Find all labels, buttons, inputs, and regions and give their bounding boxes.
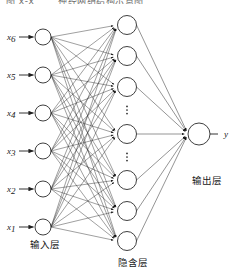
edge-input-2-hidden-1 xyxy=(51,28,114,75)
layer-label-input: 输入层 xyxy=(30,239,60,250)
edges-hidden-to-output xyxy=(137,25,187,241)
hidden-node-1 xyxy=(118,16,137,35)
hidden-node-6 xyxy=(118,202,137,221)
input-node-5 xyxy=(35,181,51,197)
edge-input-3-hidden-6 xyxy=(51,113,115,208)
hidden-ellipsis-2-dot-3 xyxy=(126,160,128,162)
edge-hidden-3-output xyxy=(137,87,186,132)
input-label-5: x2 xyxy=(6,184,16,196)
layer-label-hidden: 隐含层 xyxy=(118,257,148,268)
hidden-node-2 xyxy=(118,47,137,66)
edge-input-5-hidden-4 xyxy=(51,137,114,189)
input-label-3: x4 xyxy=(6,108,16,120)
edge-input-5-hidden-5 xyxy=(51,181,113,189)
edge-input-4-hidden-1 xyxy=(51,29,116,151)
hidden-node-4 xyxy=(118,125,137,144)
hidden-node-7 xyxy=(118,232,137,251)
layer-label-output: 输出层 xyxy=(192,175,222,186)
edge-input-3-hidden-4 xyxy=(51,113,113,133)
input-label-2: x5 xyxy=(6,70,16,82)
input-node-6 xyxy=(35,219,51,235)
hidden-layer-nodes xyxy=(118,16,137,251)
output-signal-label: y xyxy=(223,129,228,139)
hidden-ellipsis-1-dot-2 xyxy=(126,109,128,111)
edge-hidden-1-output xyxy=(137,25,187,131)
edge-input-1-hidden-3 xyxy=(51,37,114,84)
input-layer-nodes xyxy=(35,29,51,235)
input-label-6: x1 xyxy=(6,222,16,234)
figure-root: 图 x-x 神经网络结构示意图 x6x5x4x3x2x1 y 输入层隐含层输出层 xyxy=(0,0,235,274)
edges-input-to-hidden xyxy=(51,26,116,240)
neural-network-diagram: x6x5x4x3x2x1 y 输入层隐含层输出层 xyxy=(0,0,235,274)
edge-input-5-hidden-2 xyxy=(51,60,116,189)
input-label-4: x3 xyxy=(6,146,16,158)
hidden-ellipsis-2-dot-2 xyxy=(126,156,128,158)
hidden-ellipsis-1-dot-3 xyxy=(126,113,128,115)
edge-input-1-hidden-2 xyxy=(51,37,113,55)
input-label-1: x6 xyxy=(6,32,16,44)
edge-input-6-hidden-7 xyxy=(51,227,113,240)
input-node-4 xyxy=(35,143,51,159)
edge-input-6-hidden-5 xyxy=(51,182,114,227)
input-variable-labels: x6x5x4x3x2x1 xyxy=(6,32,16,234)
input-node-3 xyxy=(35,105,51,121)
output-variable-label: y xyxy=(210,129,228,139)
hidden-ellipsis-2-dot-1 xyxy=(126,153,128,155)
edge-hidden-6-output xyxy=(137,137,186,211)
edge-input-6-hidden-1 xyxy=(51,29,116,227)
input-node-2 xyxy=(35,67,51,83)
input-node-1 xyxy=(35,29,51,45)
hidden-node-5 xyxy=(118,171,137,190)
edge-input-2-hidden-6 xyxy=(51,75,116,207)
input-signal-arrows xyxy=(19,37,34,227)
edge-hidden-7-output xyxy=(137,137,187,241)
edge-input-6-hidden-4 xyxy=(51,137,115,227)
output-node-1 xyxy=(188,123,210,145)
hidden-ellipsis-1-dot-1 xyxy=(126,106,128,108)
edge-input-6-hidden-3 xyxy=(51,91,116,227)
hidden-node-3 xyxy=(118,78,137,97)
edge-hidden-5-output xyxy=(137,136,186,180)
output-layer-nodes xyxy=(188,123,210,145)
